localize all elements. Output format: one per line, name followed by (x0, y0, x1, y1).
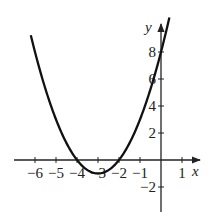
y-axis-label: y (143, 19, 152, 35)
y-tick-label: 4 (149, 98, 157, 114)
parabola-graph: −6−5−4−3−2−11 −22468 x y (0, 0, 213, 223)
y-tick-label: 2 (149, 125, 157, 141)
axes (14, 24, 200, 212)
x-tick-label: 1 (178, 165, 186, 181)
x-tick-label: −6 (27, 165, 43, 181)
x-axis-label: x (191, 163, 199, 179)
y-tick-label: 8 (149, 44, 157, 60)
parabola-curve (31, 17, 170, 173)
x-tick-label: −5 (48, 165, 64, 181)
y-tick-label: −2 (140, 179, 156, 195)
